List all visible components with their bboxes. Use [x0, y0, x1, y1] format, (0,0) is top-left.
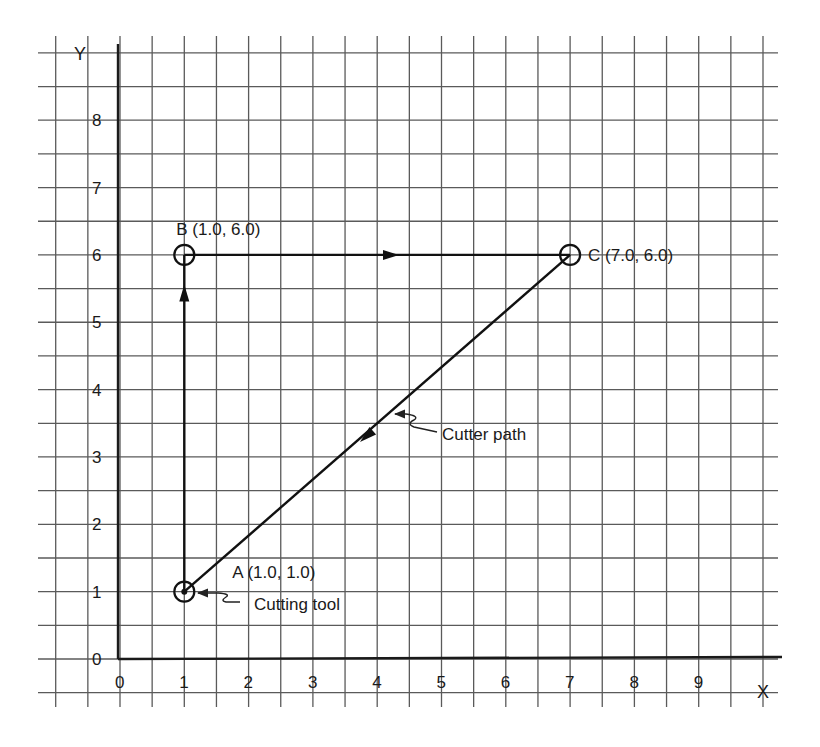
x-tick-label: 9	[694, 673, 703, 692]
y-axis-name: Y	[74, 44, 86, 64]
x-tick-label: 8	[629, 673, 638, 692]
y-tick-label: 4	[92, 381, 101, 400]
x-tick-label: 2	[244, 673, 253, 692]
x-tick-label: 7	[565, 673, 574, 692]
grid	[38, 36, 778, 707]
x-tick-label: 4	[372, 673, 381, 692]
point-b-label: B (1.0, 6.0)	[176, 220, 260, 239]
cutter-path-segments	[179, 250, 570, 592]
y-tick-label: 3	[92, 448, 101, 467]
x-tick-label: 1	[179, 673, 188, 692]
point-c-label: C (7.0, 6.0)	[588, 246, 673, 265]
cutter-path-diagram: YX 0123456789012345678 A (1.0, 1.0)B (1.…	[0, 0, 820, 747]
cutting-tool-leader	[198, 593, 240, 602]
arrow-down-left-icon	[360, 427, 376, 442]
x-tick-label: 5	[437, 673, 446, 692]
cutting-tool-label: Cutting tool	[254, 595, 340, 614]
arrow-up-icon	[179, 285, 189, 302]
x-axis-name: X	[757, 682, 769, 702]
y-tick-label: 2	[92, 515, 101, 534]
x-tick-label: 3	[308, 673, 317, 692]
point-a-center-dot	[181, 589, 187, 595]
arrow-right-icon	[383, 250, 399, 260]
y-tick-label: 1	[92, 583, 101, 602]
y-tick-label: 6	[92, 246, 101, 265]
point-a-label: A (1.0, 1.0)	[232, 563, 315, 582]
y-tick-label: 8	[92, 111, 101, 130]
cutting-tool-annotation: Cutting tool	[198, 593, 340, 614]
y-tick-label: 7	[92, 179, 101, 198]
y-tick-label: 0	[92, 650, 101, 669]
x-tick-label: 6	[501, 673, 510, 692]
x-tick-label: 0	[115, 673, 124, 692]
axes: YX	[74, 44, 782, 702]
cutter-path-label: Cutter path	[442, 425, 526, 444]
y-tick-label: 5	[92, 313, 101, 332]
